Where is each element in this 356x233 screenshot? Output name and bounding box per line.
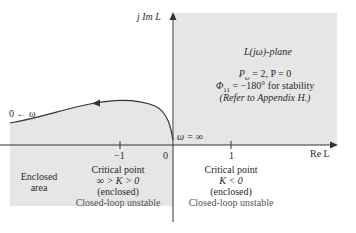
tick-label-minus-one: −1 — [114, 150, 125, 161]
pole-count-rest: = 2, P = 0 — [250, 68, 291, 79]
enclosed-area-line2: area — [14, 182, 64, 193]
omega-infinity-label: ω = ∞ — [177, 131, 203, 142]
right-critical-point-block: Critical point K < 0 (enclosed) Closed-l… — [181, 164, 281, 208]
nyquist-diagram — [0, 0, 356, 233]
enclosed-area-label: Enclosed area — [14, 171, 64, 193]
imaginary-axis-label: j Im L — [137, 11, 161, 22]
omega-zero-label: 0 ← ω — [9, 108, 36, 119]
right-critical-title: Critical point — [181, 164, 281, 175]
tick-label-zero: 0 — [163, 150, 168, 161]
left-critical-title: Critical point — [68, 164, 168, 175]
left-critical-condition: ∞ > K > 0 — [68, 175, 168, 186]
phase-condition-rest: = −180° for stability — [230, 80, 314, 91]
left-critical-point-block: Critical point ∞ > K > 0 (enclosed) Clos… — [68, 164, 168, 208]
plane-label: L(jω)-plane — [244, 46, 292, 57]
real-axis-label: Re L — [310, 148, 330, 159]
left-critical-result: Closed-loop unstable — [68, 197, 168, 208]
enclosed-area-line1: Enclosed — [14, 171, 64, 182]
right-critical-condition: K < 0 — [181, 175, 281, 186]
right-critical-result: Closed-loop unstable — [181, 197, 281, 208]
imaginary-axis-label-text: j Im L — [137, 11, 161, 22]
right-critical-status: (enclosed) — [181, 186, 281, 197]
tick-label-one: 1 — [229, 150, 234, 161]
left-critical-status: (enclosed) — [68, 186, 168, 197]
appendix-reference: (Refer to Appendix H.) — [205, 92, 325, 103]
